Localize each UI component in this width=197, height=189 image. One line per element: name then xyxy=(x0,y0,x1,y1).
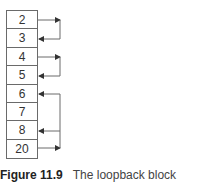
figure-label: Figure 11.9 xyxy=(0,168,63,182)
figure-caption: Figure 11.9The loopback block xyxy=(0,168,176,182)
figure-title: The loopback block xyxy=(73,168,176,182)
link-4-to-5 xyxy=(38,57,60,76)
link-2-to-3 xyxy=(38,20,60,39)
loopback-arrows xyxy=(0,0,197,189)
link-20-to-6-and-8 xyxy=(38,94,60,148)
